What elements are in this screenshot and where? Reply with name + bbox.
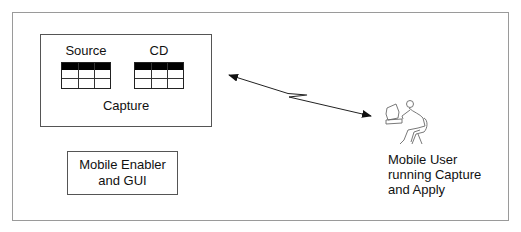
person-at-computer-icon — [386, 101, 427, 145]
mobile-user-label-line2: running Capture — [388, 167, 481, 182]
mobile-user-label-line3: and Apply — [388, 182, 445, 197]
connection-overlay — [0, 0, 521, 232]
mobile-user-label-line1: Mobile User — [388, 152, 457, 167]
bidirectional-wireless-arrow-icon — [229, 75, 371, 116]
